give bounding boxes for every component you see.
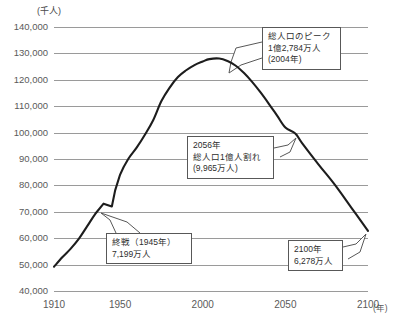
y-axis-tick-label: 120,000 xyxy=(0,74,48,85)
annotation-year-2100-line-2: 6,278万人 xyxy=(294,256,338,268)
y-axis-tick-label: 100,000 xyxy=(0,127,48,138)
annotation-end-of-war-line-1: 終戦（1945年） xyxy=(112,237,187,249)
annotation-below-100m: 2056年 総人口1億人割れ (9,965万人) xyxy=(187,136,274,179)
annotation-below-100m-line-3: (9,965万人) xyxy=(193,163,269,175)
y-axis-tick-label: 50,000 xyxy=(0,259,48,270)
y-axis-tick-label: 140,000 xyxy=(0,21,48,32)
y-axis-tick-label: 90,000 xyxy=(0,153,48,164)
callout-leader xyxy=(274,138,296,157)
annotation-peak-line-1: 総人口のピーク xyxy=(268,31,336,43)
y-axis-tick-label: 40,000 xyxy=(0,285,48,296)
x-axis-tick-label: 2000 xyxy=(178,299,228,310)
y-axis-tick-label: 60,000 xyxy=(0,232,48,243)
annotation-peak-line-3: (2004年) xyxy=(268,54,336,66)
y-axis-tick-label: 110,000 xyxy=(0,100,48,111)
annotation-year-2100-line-1: 2100年 xyxy=(294,244,338,256)
y-axis-tick-label: 70,000 xyxy=(0,206,48,217)
annotation-below-100m-line-1: 2056年 xyxy=(193,140,269,152)
annotation-peak-line-2: 1億2,784万人 xyxy=(268,43,336,55)
callout-leader xyxy=(343,234,366,259)
y-axis-tick-label: 80,000 xyxy=(0,179,48,190)
annotation-end-of-war-line-2: 7,199万人 xyxy=(112,249,187,261)
x-axis-unit-label: (年) xyxy=(373,301,388,313)
x-axis-tick-label: 1950 xyxy=(95,299,145,310)
annotation-below-100m-line-2: 総人口1億人割れ xyxy=(193,152,269,164)
annotation-peak: 総人口のピーク 1億2,784万人 (2004年) xyxy=(262,27,341,70)
annotation-end-of-war: 終戦（1945年） 7,199万人 xyxy=(106,233,192,264)
callout-leader xyxy=(101,213,140,233)
y-axis-unit-label: (千人) xyxy=(37,4,61,17)
x-axis-tick-label: 2050 xyxy=(260,299,310,310)
y-axis-tick-label: 130,000 xyxy=(0,47,48,58)
population-line-chart: (千人) 140,000130,000120,000110,000100,000… xyxy=(0,0,396,329)
callout-leader xyxy=(229,42,262,73)
x-axis-tick-label: 1910 xyxy=(29,299,79,310)
annotation-year-2100: 2100年 6,278万人 xyxy=(288,240,343,271)
